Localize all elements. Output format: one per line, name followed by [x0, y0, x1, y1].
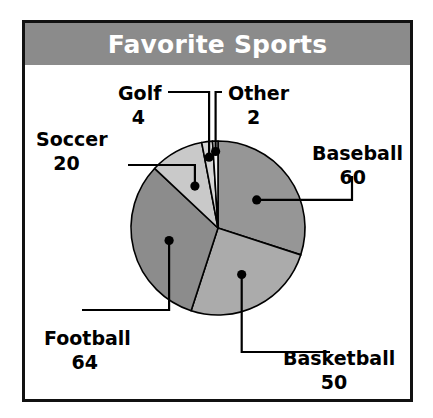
- leader-dot-other: [211, 147, 220, 156]
- pie-slice-group: [131, 141, 305, 315]
- label-basketball-name: Basketball: [283, 347, 395, 369]
- leader-dot-basketball: [237, 270, 246, 279]
- leader-dot-football: [165, 236, 174, 245]
- label-golf-value: 4: [132, 106, 145, 128]
- label-football-value: 64: [72, 351, 98, 373]
- chart-screenshot: Favorite Sports Baseball60Basketball50Fo…: [0, 0, 433, 418]
- label-other-name: Other: [228, 82, 290, 104]
- label-baseball-name: Baseball: [312, 142, 403, 164]
- label-other-value: 2: [247, 106, 260, 128]
- label-golf-name: Golf: [118, 82, 162, 104]
- pie-chart: Baseball60Basketball50Football64Soccer20…: [0, 0, 433, 418]
- label-baseball-value: 60: [340, 166, 366, 188]
- label-basketball-value: 50: [321, 371, 347, 393]
- label-football-name: Football: [44, 327, 131, 349]
- label-soccer-value: 20: [53, 152, 79, 174]
- label-soccer-name: Soccer: [36, 128, 108, 150]
- leader-dot-baseball: [252, 195, 261, 204]
- leader-dot-soccer: [190, 182, 199, 191]
